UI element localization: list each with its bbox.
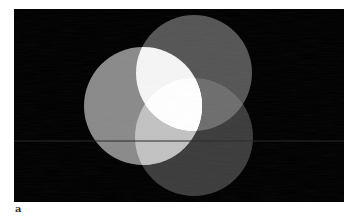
figure: a [0,0,359,218]
image-grain-texture [14,9,344,202]
panel-label: a [15,203,21,215]
additive-light-circles-image [0,0,359,218]
